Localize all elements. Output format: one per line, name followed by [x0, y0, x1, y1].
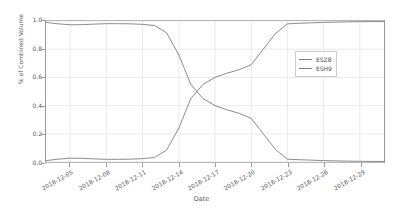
- y-axis-tick-label: 0.6: [16, 74, 42, 80]
- x-axis-tick-mark: [324, 163, 325, 167]
- x-axis-tick-mark: [142, 163, 143, 167]
- y-axis-tick-label: 0.8: [16, 46, 42, 52]
- x-axis-tick-label: 2018-12-20: [221, 169, 257, 194]
- chart-figure: % of Combined Volume 0.00.20.40.60.81.0 …: [0, 0, 403, 211]
- y-axis-tick-mark: [41, 163, 45, 164]
- chart-legend[interactable]: ESZ8ESH9: [295, 51, 337, 77]
- x-axis-tick-label: 2018-12-08: [75, 169, 111, 194]
- y-axis-tick-label: 0.4: [16, 103, 42, 109]
- x-axis-tick-label: 2018-12-26: [293, 169, 329, 194]
- y-axis-tick-label: 0.0: [16, 160, 42, 166]
- y-axis-tick-label: 0.2: [16, 131, 42, 137]
- y-axis-tick-label: 1.0: [16, 17, 42, 23]
- x-axis-tick-mark: [251, 163, 252, 167]
- legend-item-label: ESZ8: [316, 57, 332, 63]
- x-axis-tick-label: 2018-12-23: [257, 169, 293, 194]
- x-axis-tick-mark: [361, 163, 362, 167]
- legend-item-esz8[interactable]: ESZ8: [299, 55, 332, 64]
- x-axis-tick-label: 2018-12-29: [330, 169, 366, 194]
- x-axis-tick-label: 2018-12-17: [184, 169, 220, 194]
- legend-item-label: ESH9: [316, 66, 332, 72]
- plot-area: [45, 20, 385, 163]
- series-line-esh9: [46, 22, 384, 161]
- legend-line-swatch: [299, 59, 312, 60]
- x-axis-tick-mark: [179, 163, 180, 167]
- x-axis-tick-mark: [288, 163, 289, 167]
- x-axis-tick-label: 2018-12-11: [111, 169, 147, 194]
- x-axis-tick-mark: [215, 163, 216, 167]
- x-axis-tick-label: 2018-12-14: [148, 169, 184, 194]
- x-axis-label: Date: [0, 196, 403, 203]
- legend-line-swatch: [299, 68, 312, 69]
- series-line-esz8: [46, 22, 384, 161]
- x-axis-tick-mark: [106, 163, 107, 167]
- series-lines: [46, 21, 384, 162]
- x-axis-tick-mark: [69, 163, 70, 167]
- legend-item-esh9[interactable]: ESH9: [299, 64, 332, 73]
- x-axis-tick-label: 2018-12-05: [38, 169, 74, 194]
